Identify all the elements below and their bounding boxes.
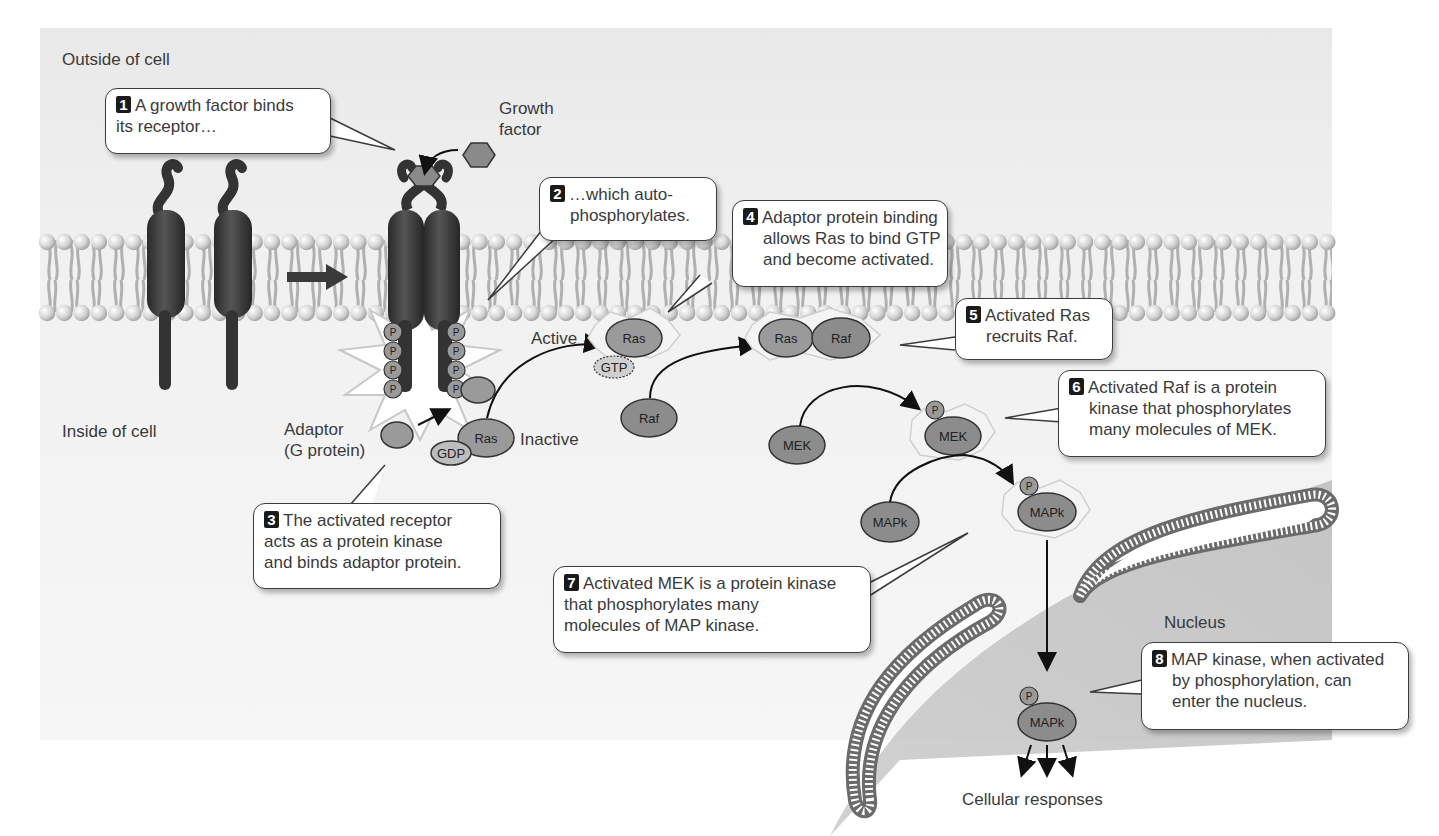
svg-text:P: P [453,346,460,357]
growth-factor-label: Growth factor [499,98,554,140]
step-badge: 3 [264,511,279,528]
adaptor-free [381,422,413,448]
raf-inactive-label: Raf [639,411,660,426]
callout-step-8: 8MAP kinase, when activated by phosphory… [1141,642,1409,730]
svg-text:P: P [390,327,397,338]
growth-factor-hexagon [463,143,495,167]
mek-active-label: MEK [939,429,968,444]
inactive-label: Inactive [520,429,579,450]
mek-inactive-label: MEK [783,438,812,453]
mapk-nuclear-label: MAPk [1030,715,1065,730]
svg-text:P: P [932,405,939,416]
svg-text:P: P [453,384,460,395]
inside-of-cell-label: Inside of cell [62,421,157,442]
svg-text:P: P [390,346,397,357]
adaptor-bound [461,377,495,403]
active-label: Active [531,328,577,349]
raf-active-label: Raf [831,331,852,346]
callout-step-2: 2…which auto- phosphorylates. [539,177,717,241]
ras-active-label: Ras [622,331,646,346]
svg-text:P: P [453,365,460,376]
callout-step-7: 7Activated MEK is a protein kinase that … [553,566,871,653]
gtp-label: GTP [601,360,628,375]
cellular-responses-label: Cellular responses [962,789,1103,810]
mapk-signaling-diagram: PPPP PPPP Ras GDP Ras GTP Raf Ras Raf ME… [0,0,1439,836]
callout-step-5: 5Activated Ras recruits Raf. [955,298,1113,360]
step-badge: 4 [743,208,758,225]
step-badge: 7 [564,574,579,591]
step-badge: 1 [116,96,131,113]
svg-text:P: P [1026,691,1033,702]
adaptor-label: Adaptor (G protein) [284,419,365,461]
mapk-active-label: MAPk [1030,505,1065,520]
step-badge: 5 [966,306,981,323]
svg-text:P: P [453,327,460,338]
bound-growth-factor [408,166,440,186]
response-arrows [1022,745,1072,774]
svg-text:P: P [390,384,397,395]
step-badge: 6 [1069,378,1084,395]
callout-step-4: 4Adaptor protein binding allows Ras to b… [732,200,948,287]
svg-text:P: P [390,365,397,376]
nucleus-label: Nucleus [1164,612,1225,633]
mapk-inactive-label: MAPk [873,515,908,530]
svg-text:P: P [1026,481,1033,492]
gdp-label: GDP [437,446,465,461]
callout-step-6: 6Activated Raf is a protein kinase that … [1058,370,1326,457]
callout-step-1: 1A growth factor binds its receptor… [105,88,331,154]
step-badge: 8 [1152,650,1167,667]
ras-complex-label: Ras [774,331,798,346]
step-badge: 2 [550,185,565,202]
callout-step-3: 3The activated receptor acts as a protei… [253,503,501,589]
outside-of-cell-label: Outside of cell [62,49,170,70]
ras-inactive-label: Ras [474,431,498,446]
